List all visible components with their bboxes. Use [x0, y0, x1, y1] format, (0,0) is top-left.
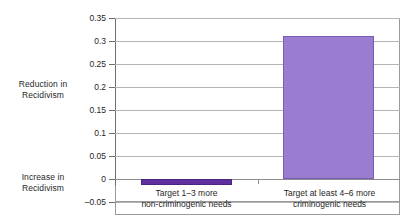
- y-tick-label: 0.15: [52, 106, 106, 115]
- category-separator-tick: [258, 179, 259, 184]
- y-tick-mark: [109, 179, 115, 180]
- y-tick-mark: [109, 110, 115, 111]
- y-tick-label: 0.1: [52, 129, 106, 138]
- y-tick-label: 0.3: [52, 37, 106, 46]
- category-label: Target at least 4–6 more criminogenic ne…: [258, 188, 401, 209]
- y-tick-mark: [109, 18, 115, 19]
- y-tick-mark: [109, 156, 115, 157]
- y-tick-label: 0.25: [52, 60, 106, 69]
- y-tick-label: 0: [52, 175, 106, 184]
- y-tick-label: 0.35: [52, 14, 106, 23]
- gridline: [115, 18, 400, 19]
- y-tick-mark: [109, 133, 115, 134]
- bar: [283, 36, 374, 179]
- y-tick-label: 0.05: [52, 152, 106, 161]
- y-tick-mark: [109, 87, 115, 88]
- y-tick-label: –0.05: [52, 198, 106, 207]
- y-tick-mark: [109, 64, 115, 65]
- bar-chart: Reduction in Recidivism Increase in Reci…: [0, 0, 417, 216]
- category-label: Target 1–3 more non-criminogenic needs: [115, 188, 258, 209]
- bar: [141, 179, 232, 185]
- y-tick-label: 0.2: [52, 83, 106, 92]
- y-tick-mark: [109, 41, 115, 42]
